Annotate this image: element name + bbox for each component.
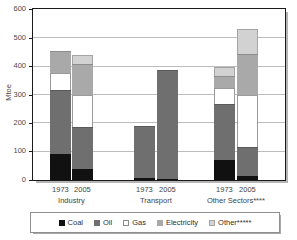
legend-label: Coal [68,218,83,227]
bar-segment-oil [134,126,155,178]
bar-segment-elec [50,51,71,73]
bar-stack [237,29,258,180]
legend-item-elec[interactable]: Electricity [157,218,198,227]
x-tick-label-year: 2005 [152,185,182,194]
legend-swatch-other [209,220,215,226]
bar-segment-gas [72,95,93,128]
bar-stack [214,67,235,180]
bar-segment-gas [237,95,258,147]
legend-item-coal[interactable]: Coal [59,218,83,227]
stacked-bar-chart: Mtoe 0100200300400500600 197320051973200… [0,0,297,240]
x-tick-label-year: 2005 [232,185,262,194]
bar-segment-elec [72,64,93,95]
plot-inner [33,9,285,180]
y-tick-label: 400 [0,62,26,70]
y-tick-label: 600 [0,5,26,13]
bar-segment-oil [214,104,235,159]
legend-swatch-coal [59,220,65,226]
bar-stack [50,51,71,180]
y-tick-label: 100 [0,147,26,155]
bar-segment-coal [134,178,155,180]
legend-label: Other***** [218,218,251,227]
bar-segment-elec [214,76,235,88]
legend-swatch-gas [123,220,129,226]
bar-segment-other [237,29,258,54]
plot-area [32,8,286,181]
legend-swatch-elec [157,220,163,226]
legend-label: Oil [103,218,112,227]
bar-segment-gas [214,88,235,104]
y-tick-label: 300 [0,91,26,99]
legend-item-other[interactable]: Other***** [209,218,251,227]
x-axis-group-label: Industry [23,196,119,205]
bar-segment-other [214,67,235,76]
bar-segment-coal [214,160,235,180]
bar-segment-coal [72,169,93,180]
bar-segment-coal [50,154,71,180]
bar-segment-coal [237,176,258,180]
legend-label: Gas [132,218,146,227]
bar-stack [72,55,93,180]
y-tick-label: 500 [0,34,26,42]
y-tick-label: 200 [0,119,26,127]
bar-segment-oil [72,127,93,169]
legend-item-oil[interactable]: Oil [94,218,112,227]
bar-segment-oil [50,90,71,155]
y-tick-label: 0 [0,176,26,184]
legend-label: Electricity [166,218,198,227]
bar-segment-oil [237,147,258,177]
bar-segment-other [72,55,93,64]
bar-segment-coal [157,179,178,180]
bar-stack [157,70,178,180]
bar-segment-gas [50,73,71,89]
x-axis-group-label: Other Sectors**** [188,196,284,205]
bar-segment-elec [237,54,258,95]
bar-stack [134,126,155,180]
x-tick-label-year: 2005 [67,185,97,194]
legend-swatch-oil [94,220,100,226]
chart-legend: CoalOilGasElectricityOther***** [30,212,280,233]
legend-item-gas[interactable]: Gas [123,218,146,227]
bar-segment-oil [157,70,178,179]
